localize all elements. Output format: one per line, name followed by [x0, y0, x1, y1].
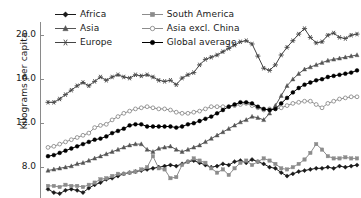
- legend-key-europe: [54, 37, 77, 48]
- series-south-america: [46, 142, 358, 188]
- series-asia-excl-china: [46, 95, 359, 149]
- legend-key-global-average: [141, 37, 164, 48]
- legend-item-europe[interactable]: Europe: [54, 36, 127, 49]
- legend-key-south-america: [141, 9, 164, 20]
- legend-item-africa[interactable]: Africa: [54, 8, 127, 21]
- legend-item-asia[interactable]: Asia: [54, 22, 127, 35]
- legend-label-asia: Asia: [80, 22, 99, 35]
- series-africa: [46, 157, 359, 195]
- legend-item-south-america[interactable]: South America: [141, 8, 254, 21]
- legend-item-global-average[interactable]: Global average: [141, 36, 254, 49]
- y-tick-label-8: 8.0: [6, 161, 36, 171]
- chart-legend: Africa South America Asia Asia excl. Chi…: [54, 8, 254, 49]
- legend-key-asia: [54, 23, 77, 34]
- y-tick-label-20: 20.0: [6, 29, 36, 39]
- chart-figure: Kilograms per capita 20.0 16.0 12.0 8.0 …: [0, 0, 361, 198]
- legend-label-asia-excl-china: Asia excl. China: [167, 22, 240, 35]
- legend-key-africa: [54, 9, 77, 20]
- legend-label-south-america: South America: [167, 8, 234, 21]
- legend-item-asia-excl-china[interactable]: Asia excl. China: [141, 22, 254, 35]
- y-tick-label-16: 16.0: [6, 73, 36, 83]
- legend-label-global-average: Global average: [167, 36, 237, 49]
- legend-label-europe: Europe: [80, 36, 112, 49]
- legend-label-africa: Africa: [80, 8, 106, 21]
- series-global-average: [46, 69, 359, 159]
- y-tick-label-12: 12.0: [6, 117, 36, 127]
- legend-key-asia-excl-china: [141, 23, 164, 34]
